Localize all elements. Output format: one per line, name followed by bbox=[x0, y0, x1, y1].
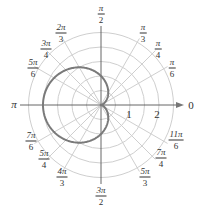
angle-label-7pi-6: 7π6 bbox=[25, 131, 36, 152]
angle-label-pi: π bbox=[11, 99, 17, 110]
angle-label-11pi-6: 11π6 bbox=[169, 130, 184, 151]
angle-label-0: 0 bbox=[188, 100, 194, 111]
angle-label-pi-4: π4 bbox=[155, 39, 162, 60]
polar-plot bbox=[0, 0, 202, 213]
angle-label-5pi-3: 5π3 bbox=[139, 167, 150, 188]
angle-label-3pi-4: 3π4 bbox=[40, 39, 51, 60]
angle-label-3pi-2: 3π2 bbox=[95, 186, 106, 207]
angle-label-4pi-3: 4π3 bbox=[56, 167, 67, 188]
radial-tick-label-2: 2 bbox=[154, 109, 160, 120]
angle-label-7pi-4: 7π4 bbox=[155, 148, 166, 169]
angle-label-pi-2: π2 bbox=[98, 4, 105, 25]
angle-label-2pi-3: 2π3 bbox=[55, 23, 66, 44]
angle-label-pi-6: π6 bbox=[169, 58, 176, 79]
angle-label-5pi-4: 5π4 bbox=[38, 149, 49, 170]
axis-arrow-icon bbox=[176, 102, 184, 108]
angle-label-5pi-6: 5π6 bbox=[27, 58, 38, 79]
radial-tick-label-1: 1 bbox=[126, 109, 132, 120]
angle-label-pi-3: π3 bbox=[140, 23, 147, 44]
